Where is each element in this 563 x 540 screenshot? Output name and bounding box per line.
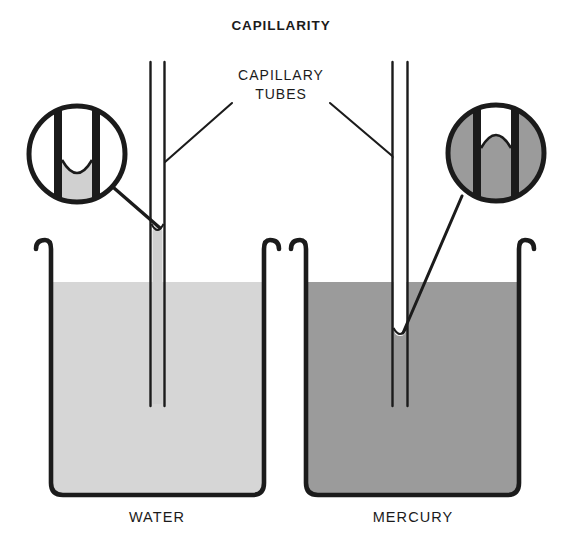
diagram-title: CAPILLARITY [231, 18, 330, 33]
capillarity-diagram: CAPILLARITY CAPILLARY TUBES WATER [0, 0, 563, 540]
callout-label-line2: TUBES [255, 86, 307, 102]
mercury-label: MERCURY [373, 509, 454, 525]
mercury-tube-void-fill [394, 62, 407, 336]
callout-label-line1: CAPILLARY [238, 67, 324, 83]
water-label: WATER [129, 509, 185, 525]
water-tube-column-fill [153, 226, 163, 404]
